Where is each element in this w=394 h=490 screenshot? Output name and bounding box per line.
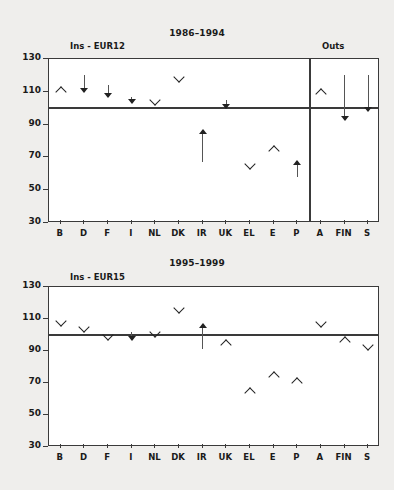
- data-marker-f: [100, 85, 116, 96]
- marker-arrowhead: [104, 93, 112, 98]
- x-axis-tick-label-ir: IR: [197, 228, 207, 238]
- x-axis-tick-label-dk: DK: [171, 452, 185, 462]
- x-axis-tick-mark: [178, 220, 179, 224]
- marker-arrowhead: [128, 99, 136, 104]
- y-axis-tick-mark: [43, 156, 48, 157]
- reference-line-100: [49, 107, 378, 109]
- marker-arrowhead: [80, 88, 88, 93]
- y-axis-tick-mark: [43, 91, 48, 92]
- chart-title-top: 1986–1994: [0, 28, 394, 38]
- reference-line-100: [49, 334, 378, 336]
- marker-chevron: [292, 378, 303, 389]
- group-label-outs: Outs: [322, 41, 344, 51]
- plot-area-bottom: [48, 286, 379, 446]
- marker-arrowhead: [341, 116, 349, 121]
- data-marker-nl: [147, 92, 163, 108]
- marker-chevron: [102, 329, 113, 340]
- group-label-ins-eur12: Ins - EUR12: [70, 41, 125, 51]
- x-axis-tick-mark: [367, 444, 368, 448]
- marker-chevron: [150, 326, 161, 337]
- marker-chevron: [173, 302, 184, 313]
- x-axis-tick-mark: [273, 220, 274, 224]
- data-marker-i: [124, 332, 140, 340]
- y-axis-tick-mark: [43, 222, 48, 223]
- data-marker-el: [242, 383, 258, 399]
- y-axis-tick-mark: [43, 189, 48, 190]
- x-axis-tick-label-d: D: [80, 452, 87, 462]
- y-axis-tick-label: 30: [15, 440, 41, 450]
- data-marker-ir: [195, 324, 211, 350]
- x-axis-tick-mark: [83, 220, 84, 224]
- y-axis-tick-label: 70: [15, 150, 41, 160]
- x-axis-tick-mark: [249, 220, 250, 224]
- chart-panel-1995-1999: 1995–1999 Ins - EUR15 13011090705030BDFI…: [0, 250, 394, 490]
- y-axis-tick-label: 130: [15, 280, 41, 290]
- x-axis-tick-label-el: EL: [243, 228, 254, 238]
- x-axis-tick-mark: [249, 444, 250, 448]
- x-axis-tick-mark: [60, 444, 61, 448]
- x-axis-tick-mark: [202, 220, 203, 224]
- x-axis-tick-mark: [131, 220, 132, 224]
- marker-chevron: [244, 158, 255, 169]
- marker-stem: [344, 75, 345, 119]
- y-axis-tick-label: 50: [15, 183, 41, 193]
- y-axis-tick-mark: [43, 414, 48, 415]
- x-axis-tick-label-i: I: [129, 452, 132, 462]
- y-axis-tick-label: 90: [15, 344, 41, 354]
- marker-chevron: [55, 86, 66, 97]
- data-marker-d: [76, 75, 92, 91]
- marker-chevron: [268, 371, 279, 382]
- data-marker-s: [360, 75, 376, 111]
- x-axis-tick-label-f: F: [104, 452, 110, 462]
- x-axis-tick-label-f: F: [104, 228, 110, 238]
- data-marker-nl: [147, 324, 163, 340]
- data-marker-p: [289, 373, 305, 389]
- x-axis-tick-label-fin: FIN: [335, 452, 351, 462]
- x-axis-tick-mark: [107, 444, 108, 448]
- plot-area-top: [48, 58, 379, 222]
- y-axis-tick-mark: [43, 446, 48, 447]
- x-axis-tick-mark: [107, 220, 108, 224]
- x-axis-tick-mark: [154, 444, 155, 448]
- x-axis-tick-mark: [60, 220, 61, 224]
- data-marker-s: [360, 337, 376, 353]
- x-axis-tick-label-nl: NL: [148, 452, 161, 462]
- y-axis-tick-mark: [43, 382, 48, 383]
- data-marker-e: [266, 367, 282, 383]
- data-marker-a: [313, 314, 329, 330]
- marker-arrowhead: [199, 323, 207, 328]
- x-axis-tick-label-ir: IR: [197, 452, 207, 462]
- marker-chevron: [173, 71, 184, 82]
- x-axis-tick-label-d: D: [80, 228, 87, 238]
- marker-arrowhead: [293, 160, 301, 165]
- data-marker-e: [266, 141, 282, 157]
- marker-arrowhead: [222, 104, 230, 109]
- x-axis-tick-label-uk: UK: [219, 228, 233, 238]
- data-marker-dk: [171, 300, 187, 316]
- data-marker-uk: [218, 100, 234, 108]
- x-axis-tick-label-p: P: [293, 452, 299, 462]
- x-axis-tick-mark: [344, 220, 345, 224]
- x-axis-tick-mark: [225, 444, 226, 448]
- marker-chevron: [150, 94, 161, 105]
- y-axis-tick-label: 130: [15, 52, 41, 62]
- data-marker-i: [124, 97, 140, 104]
- y-axis-tick-mark: [43, 350, 48, 351]
- x-axis-tick-label-uk: UK: [219, 452, 233, 462]
- y-axis-tick-label: 30: [15, 216, 41, 226]
- marker-arrowhead: [199, 129, 207, 134]
- x-axis-tick-label-e: E: [270, 228, 276, 238]
- x-axis-tick-mark: [344, 444, 345, 448]
- x-axis-tick-mark: [273, 444, 274, 448]
- y-axis-tick-mark: [43, 124, 48, 125]
- x-axis-tick-label-b: B: [57, 228, 63, 238]
- marker-chevron: [363, 339, 374, 350]
- y-axis-tick-mark: [43, 286, 48, 287]
- x-axis-tick-mark: [131, 444, 132, 448]
- data-marker-f: [100, 327, 116, 343]
- x-axis-tick-label-el: EL: [243, 452, 254, 462]
- chart-panel-1986-1994: 1986–1994 Ins - EUR12 Outs 1301109070503…: [0, 0, 394, 250]
- x-axis-tick-label-s: S: [364, 228, 370, 238]
- x-axis-tick-mark: [367, 220, 368, 224]
- chart-title-bottom: 1995–1999: [0, 258, 394, 268]
